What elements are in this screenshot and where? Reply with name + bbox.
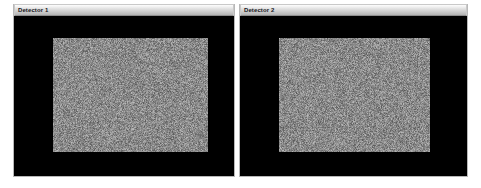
detector-panel-1-titlebar[interactable]: Detector 1 (14, 4, 234, 16)
detector-panel-2-title: Detector 2 (244, 7, 274, 14)
detector-2-noise-image[interactable] (279, 38, 430, 152)
detector-panel-1-body (14, 16, 234, 176)
detector-1-noise-image[interactable] (53, 38, 208, 152)
detector-panel-2-titlebar[interactable]: Detector 2 (240, 4, 467, 16)
detector-panel-2[interactable]: Detector 2 (239, 4, 468, 177)
detector-panel-2-body (240, 16, 467, 176)
detector-panel-1-title: Detector 1 (18, 7, 48, 14)
app-root: Detector 1 Detector 2 (0, 0, 481, 188)
detector-panel-1[interactable]: Detector 1 (13, 4, 235, 177)
